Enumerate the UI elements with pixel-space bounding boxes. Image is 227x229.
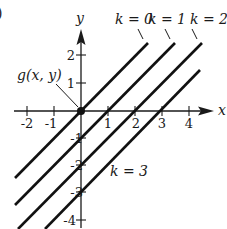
x-tick-label: 3 — [158, 116, 166, 131]
x-axis-label: x — [218, 102, 226, 118]
x-tick-label: -2 — [21, 116, 34, 131]
edge-fragment: ) — [0, 5, 2, 21]
level-label-k1: k = 1 — [148, 11, 186, 27]
x-tick-label: -1 — [45, 116, 58, 131]
level-label-leaders — [138, 29, 197, 39]
point-label: g(x, y) — [17, 67, 62, 83]
level-curves-diagram: ) -2 -1 1 2 3 4 2 1 -1 -2 -3 -4 x y — [0, 0, 227, 229]
y-tick-label: 1 — [67, 76, 75, 91]
level-label-k2: k = 2 — [190, 11, 227, 27]
y-axis-label: y — [75, 10, 85, 26]
x-tick-label: 2 — [132, 116, 140, 131]
y-tick-label: -4 — [63, 213, 76, 228]
origin-point — [77, 107, 85, 115]
x-axis — [14, 107, 214, 116]
x-tick-label: 1 — [104, 116, 112, 131]
x-tick-label: 4 — [185, 116, 193, 131]
level-label-k3: k = 3 — [110, 163, 148, 179]
y-tick-label: 2 — [67, 48, 75, 63]
